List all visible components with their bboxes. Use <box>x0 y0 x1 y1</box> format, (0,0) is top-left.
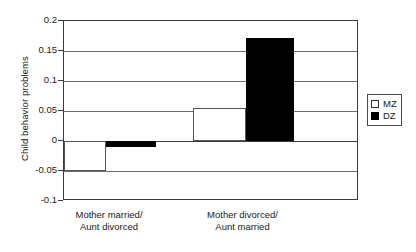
legend-swatch-mz-icon <box>371 100 379 108</box>
y-tick-label: -0.05 <box>13 165 57 175</box>
y-tick-label: 0.2 <box>13 15 57 25</box>
gridline <box>64 81 357 82</box>
bar-chart: Child behavior problems 0.20.150.10.050-… <box>0 0 416 252</box>
plot-area <box>63 20 358 200</box>
x-axis-label-group-2: Mother divorced/ Aunt married <box>173 209 313 232</box>
bar-dz-group-2 <box>246 38 294 141</box>
gridline <box>64 171 357 172</box>
bar-mz-group-1 <box>64 141 106 171</box>
y-tick-mark <box>58 200 63 201</box>
bar-dz-group-1 <box>106 141 156 147</box>
legend-label-mz: MZ <box>383 99 397 109</box>
legend-label-dz: DZ <box>383 111 396 121</box>
y-tick-label: 0 <box>13 135 57 145</box>
legend-swatch-dz-icon <box>371 112 379 120</box>
legend: MZ DZ <box>367 94 402 126</box>
legend-item-mz: MZ <box>371 98 397 110</box>
y-tick-label: -0.1 <box>13 195 57 205</box>
y-tick-label: 0.05 <box>13 105 57 115</box>
y-tick-label: 0.15 <box>13 45 57 55</box>
bar-mz-group-2 <box>193 108 246 141</box>
y-tick-label: 0.1 <box>13 75 57 85</box>
legend-item-dz: DZ <box>371 110 397 122</box>
gridline <box>64 51 357 52</box>
x-axis-label-group-1: Mother married/ Aunt divorced <box>39 209 179 232</box>
